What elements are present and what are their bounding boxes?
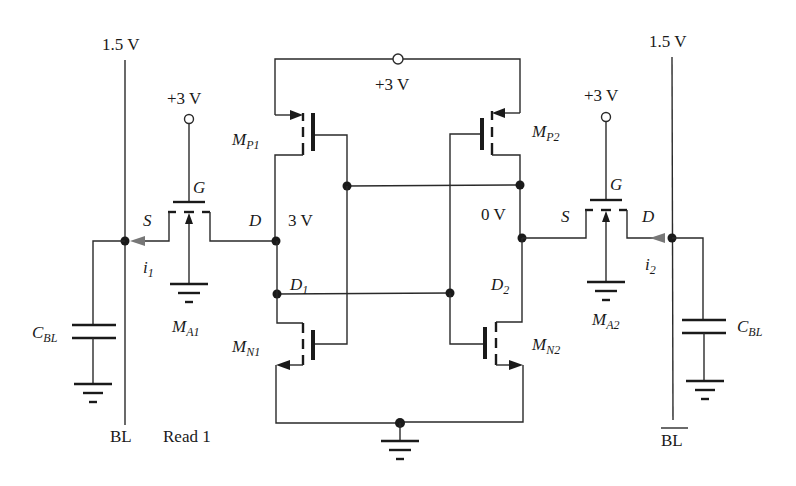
left-bitline [121,60,130,425]
left-bitline-label: BL [110,427,132,446]
left-storage-voltage: 3 V [288,211,313,230]
ma1-gate-label: G [193,178,205,197]
right-capacitor-symbol [672,238,726,380]
latch-supply-voltage: +3 V [375,75,410,94]
right-capacitor-ground-icon [686,381,724,399]
right-storage-voltage: 0 V [481,205,506,224]
nmos-mn2 [400,238,523,422]
left-capacitor-symbol [72,241,125,384]
ma2-ground-icon [587,282,625,300]
caption-read-1: Read 1 [163,427,211,446]
left-bitline-voltage: 1.5 V [102,35,140,54]
right-capacitor-label: CBL [737,317,763,339]
ma1-drain-label: D [248,211,262,230]
mp1-label: MP1 [231,130,260,152]
pmos-mp2 [450,108,520,293]
left-capacitor-label: CBL [32,323,58,345]
cross-couple-upper [343,181,525,191]
ma1-gate-supply: +3 V [167,89,202,108]
ma2-source-label: S [561,207,570,226]
current-i2-label: i2 [645,255,656,277]
ma1-ground-icon [170,284,208,302]
sram-read-circuit: 1.5 V BL Read 1 CBL +3 V G S [0,0,796,486]
ma2-gate-label: G [610,175,622,194]
ma1-label: MA1 [171,317,200,339]
mp2-label: MP2 [531,122,560,144]
left-capacitor-ground-icon [74,384,112,402]
left-storage-node [272,237,281,246]
ma2-gate-supply: +3 V [584,86,619,105]
d2-label: D2 [490,275,509,297]
right-bitline-voltage: 1.5 V [649,32,687,51]
current-i1-label: i1 [143,258,154,280]
ma2-label: MA2 [591,310,620,332]
right-bitline-label: BL [661,431,683,450]
mn2-label: MN2 [531,335,560,357]
ma1-source-label: S [143,211,152,230]
mn1-label: MN1 [231,337,260,359]
d1-label: D1 [289,275,308,297]
latch-ground-icon [381,418,419,459]
ma2-drain-label: D [641,207,655,226]
